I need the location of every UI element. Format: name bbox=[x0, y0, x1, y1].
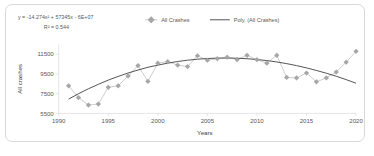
legend-trend-label: Poly. (All Crashes) bbox=[234, 17, 280, 23]
series-polyline bbox=[69, 51, 356, 105]
data-point-markers bbox=[66, 49, 358, 107]
trendline-equation: y = -14.274x² + 57345x - 6E+07 bbox=[18, 14, 93, 20]
y-axis-ticks: 55007500950011500 bbox=[37, 51, 58, 116]
legend-diamond-icon bbox=[148, 16, 154, 23]
data-point-marker bbox=[96, 102, 101, 107]
axes bbox=[59, 44, 356, 113]
data-point-marker bbox=[294, 76, 299, 81]
legend: All Crashes Poly. (All Crashes) bbox=[145, 16, 279, 23]
legend-item-trendline[interactable]: Poly. (All Crashes) bbox=[210, 17, 280, 23]
x-tick-label: 2005 bbox=[201, 118, 215, 124]
data-point-marker bbox=[215, 56, 220, 61]
x-tick-label: 1990 bbox=[52, 118, 66, 124]
chart-figure: y = -14.274x² + 57345x - 6E+07 R² = 0.54… bbox=[5, 4, 365, 142]
crash-trend-chart: y = -14.274x² + 57345x - 6E+07 R² = 0.54… bbox=[6, 5, 364, 141]
data-point-marker bbox=[106, 85, 111, 90]
legend-item-series[interactable]: All Crashes bbox=[145, 16, 190, 23]
x-tick-label: 2015 bbox=[300, 118, 314, 124]
y-tick-label: 11500 bbox=[37, 51, 54, 57]
data-point-marker bbox=[255, 57, 260, 62]
data-point-marker bbox=[225, 55, 230, 60]
data-point-marker bbox=[245, 53, 250, 58]
legend-series-label: All Crashes bbox=[161, 17, 190, 23]
data-point-marker bbox=[175, 63, 180, 68]
x-tick-label: 2010 bbox=[250, 118, 264, 124]
data-point-marker bbox=[146, 79, 151, 84]
x-tick-label: 2000 bbox=[151, 118, 165, 124]
y-axis-title: All crashes bbox=[16, 64, 23, 94]
x-tick-label: 1995 bbox=[102, 118, 116, 124]
y-tick-label: 5500 bbox=[40, 111, 54, 117]
r-squared-label: R² = 0.544 bbox=[44, 24, 69, 30]
x-tick-label: 2020 bbox=[349, 118, 363, 124]
y-tick-label: 9500 bbox=[40, 71, 54, 77]
x-axis-title: Years bbox=[197, 129, 213, 136]
x-axis-ticks: 1990199520002005201020152020 bbox=[52, 113, 363, 124]
data-point-marker bbox=[284, 75, 289, 80]
y-tick-label: 7500 bbox=[40, 91, 54, 97]
data-point-marker bbox=[324, 76, 329, 81]
